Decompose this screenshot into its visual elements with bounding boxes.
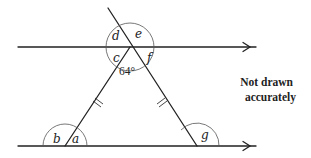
apex-angle-value: 64° (119, 65, 136, 77)
note-line-1: Not drawn (240, 76, 293, 88)
angle-label-d: d (112, 29, 120, 43)
right-side-equal-marks (157, 98, 167, 107)
angle-label-g: g (201, 128, 209, 142)
angle-label-e: e (135, 27, 142, 41)
bottom-right-angle-arc (181, 123, 219, 146)
geometry-diagram: d e c f 64° b a g Not drawn accurately (0, 0, 311, 158)
angle-label-b: b (53, 132, 61, 146)
angle-label-a: a (72, 132, 79, 146)
right-side-transversal (108, 8, 197, 146)
left-side-equal-marks (93, 98, 103, 107)
angle-label-c: c (113, 51, 120, 65)
note-line-2: accurately (245, 91, 296, 104)
bottom-left-angle-arc (43, 124, 87, 146)
